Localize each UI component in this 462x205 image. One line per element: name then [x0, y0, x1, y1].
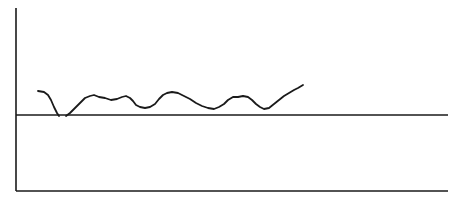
- curve-segment-2: [66, 85, 303, 116]
- wavy-curve: [38, 85, 303, 116]
- curve-segment-1: [38, 91, 59, 116]
- line-diagram: [0, 0, 462, 205]
